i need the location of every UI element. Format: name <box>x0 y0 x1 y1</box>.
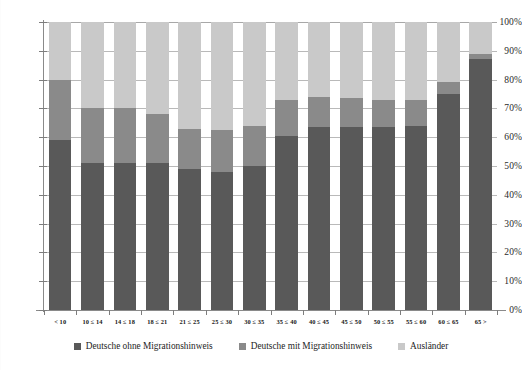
bar-segment <box>340 127 363 310</box>
y-tick-mark <box>39 252 47 253</box>
bar-7[interactable] <box>243 22 266 310</box>
bar-segment <box>275 136 298 310</box>
y-tick-mark <box>39 281 47 282</box>
x-tick-mark <box>271 310 272 315</box>
bar-segment <box>114 108 137 163</box>
y-tick-mark <box>39 22 47 23</box>
bar-segment <box>178 169 201 310</box>
bar-segment <box>308 97 331 127</box>
legend-item-2[interactable]: Deutsche mit Migrationshinweis <box>239 341 372 352</box>
legend-label: Deutsche mit Migrationshinweis <box>251 341 372 352</box>
bar-segment <box>146 114 169 163</box>
x-tick-label: < 10 <box>44 318 76 326</box>
gridline-100 <box>44 22 497 23</box>
x-tick-mark <box>76 310 77 315</box>
bar-segment <box>146 22 169 114</box>
y-tick-mark <box>39 137 47 138</box>
gridline-70 <box>44 108 497 109</box>
bar-8[interactable] <box>275 22 298 310</box>
y-tick-mark <box>39 166 47 167</box>
gridline-50 <box>44 166 497 167</box>
gridline-40 <box>44 195 497 196</box>
bar-9[interactable] <box>308 22 331 310</box>
bar-segment <box>372 100 395 127</box>
bar-3[interactable] <box>114 22 137 310</box>
bar-segment <box>469 59 492 310</box>
bar-segment <box>340 98 363 127</box>
chart-legend: Deutsche ohne MigrationshinweisDeutsche … <box>0 341 522 361</box>
x-tick-mark <box>109 310 110 315</box>
x-tick-label: 18 ≤ 21 <box>141 318 173 326</box>
stacked-bar-chart: 100%90%80%70%60%50%40%30%20%10%0% < 1010… <box>0 0 522 370</box>
bar-segment <box>340 22 363 98</box>
legend-label: Deutsche ohne Migrationshinweis <box>86 341 213 352</box>
y-tick-mark <box>39 224 47 225</box>
bar-2[interactable] <box>81 22 104 310</box>
square-swatch-icon <box>398 343 405 350</box>
y-tick-label: 60% <box>484 132 522 142</box>
x-tick-label: 60 ≤ 65 <box>432 318 464 326</box>
bar-1[interactable] <box>49 22 72 310</box>
y-tick-label: 10% <box>484 276 522 286</box>
x-tick-mark <box>303 310 304 315</box>
x-tick-mark <box>335 310 336 315</box>
bar-segment <box>243 22 266 126</box>
bar-6[interactable] <box>211 22 234 310</box>
x-tick-mark <box>465 310 466 315</box>
bar-12[interactable] <box>405 22 428 310</box>
bar-4[interactable] <box>146 22 169 310</box>
gridline-30 <box>44 224 497 225</box>
bar-segment <box>437 82 460 94</box>
bar-segment <box>405 100 428 126</box>
bar-segment <box>372 22 395 100</box>
gridline-10 <box>44 281 497 282</box>
y-tick-label: 30% <box>484 219 522 229</box>
x-tick-mark <box>44 310 45 315</box>
y-tick-mark <box>39 51 47 52</box>
bar-10[interactable] <box>340 22 363 310</box>
square-swatch-icon <box>74 343 81 350</box>
bar-segment <box>146 163 169 310</box>
x-tick-label: 10 ≤ 14 <box>76 318 108 326</box>
bar-segment <box>211 172 234 310</box>
bar-segment <box>81 163 104 310</box>
x-tick-mark <box>400 310 401 315</box>
x-tick-mark <box>206 310 207 315</box>
x-tick-label: 65 > <box>465 318 497 326</box>
x-tick-mark <box>141 310 142 315</box>
x-tick-label: 45 ≤ 50 <box>335 318 367 326</box>
legend-item-3[interactable]: Ausländer <box>398 341 448 352</box>
bar-segment <box>243 126 266 166</box>
bar-13[interactable] <box>437 22 460 310</box>
gridline-90 <box>44 51 497 52</box>
y-tick-mark <box>39 108 47 109</box>
bar-segment <box>81 108 104 163</box>
y-tick-label: 50% <box>484 161 522 171</box>
bar-segment <box>437 22 460 82</box>
bar-segment <box>211 130 234 172</box>
x-tick-label: 30 ≤ 35 <box>238 318 270 326</box>
bar-5[interactable] <box>178 22 201 310</box>
x-tick-label: 40 ≤ 45 <box>303 318 335 326</box>
y-tick-mark <box>39 310 47 311</box>
y-tick-mark <box>39 80 47 81</box>
bar-11[interactable] <box>372 22 395 310</box>
y-tick-label: 70% <box>484 103 522 113</box>
bar-segment <box>49 80 72 140</box>
x-tick-label: 55 ≤ 60 <box>400 318 432 326</box>
x-tick-mark <box>238 310 239 315</box>
bar-segment <box>308 22 331 97</box>
legend-label: Ausländer <box>410 341 448 352</box>
y-tick-label: 90% <box>484 46 522 56</box>
bar-segment <box>275 22 298 100</box>
bar-segment <box>211 22 234 130</box>
bar-segment <box>114 22 137 108</box>
bar-segment <box>405 126 428 310</box>
y-tick-label: 40% <box>484 190 522 200</box>
bar-segment <box>81 22 104 108</box>
plot-area <box>44 22 497 310</box>
x-tick-label: 21 ≤ 25 <box>173 318 205 326</box>
legend-item-1[interactable]: Deutsche ohne Migrationshinweis <box>74 341 213 352</box>
x-tick-mark <box>432 310 433 315</box>
bar-segment <box>372 127 395 310</box>
